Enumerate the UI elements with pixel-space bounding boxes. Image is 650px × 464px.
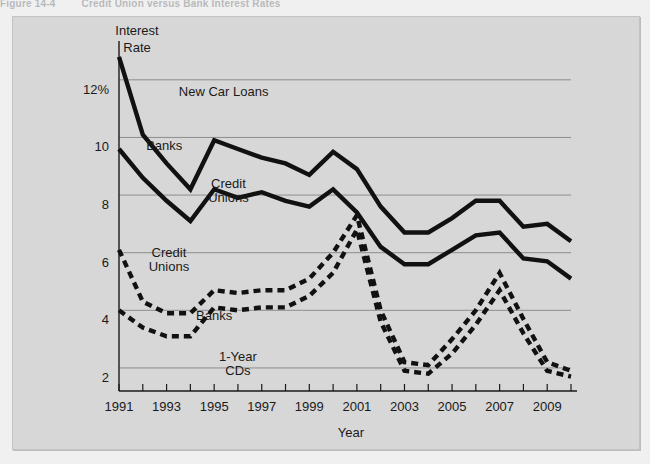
x-axis-tick-label: 2001 [342, 399, 371, 414]
x-axis-tick-marks [119, 384, 571, 391]
series-annotation: Banks [196, 308, 233, 323]
y-axis-title-line: Interest [115, 23, 159, 38]
y-axis-tick-label: 6 [102, 255, 109, 270]
series-annotation: 1-Year [219, 349, 257, 364]
y-axis-tick-labels: 12%108642 [83, 82, 109, 385]
x-axis-tick-label: 1993 [152, 399, 181, 414]
series-annotation: New Car Loans [179, 84, 269, 99]
x-axis-tick-label: 2007 [485, 399, 514, 414]
interest-rate-line-chart: 12%108642 199119931995199719992001200320… [13, 17, 639, 449]
y-axis-tick-label: 4 [102, 312, 109, 327]
x-axis-tick-label: 1995 [200, 399, 229, 414]
chart-panel: 12%108642 199119931995199719992001200320… [12, 16, 640, 450]
series-annotation: Credit [211, 176, 246, 191]
x-axis-tick-label: 2003 [390, 399, 419, 414]
x-axis-tick-label: 1991 [105, 399, 134, 414]
x-axis-title: Year [338, 425, 365, 440]
x-axis-title: Year [338, 425, 365, 440]
x-axis-tick-labels: 1991199319951997199920012003200520072009 [105, 399, 562, 414]
x-axis-tick-label: 1999 [295, 399, 324, 414]
x-axis-tick-label: 1997 [247, 399, 276, 414]
figure-title-text: Credit Union versus Bank Interest Rates [82, 0, 281, 9]
series-annotation: Credit [152, 245, 187, 260]
x-axis-tick-label: 2009 [533, 399, 562, 414]
figure-caption: Figure 14-4Credit Union versus Bank Inte… [0, 0, 650, 10]
figure-number: Figure 14-4 [0, 0, 56, 9]
y-axis-tick-label: 12% [83, 82, 109, 97]
series-annotation: Banks [146, 138, 183, 153]
y-axis-tick-label: 8 [102, 197, 109, 212]
series-line [119, 230, 571, 377]
data-series-group [119, 57, 571, 377]
y-axis-title: InterestRate [115, 23, 159, 55]
series-annotation: Unions [208, 190, 249, 205]
y-axis-tick-label: 10 [95, 139, 109, 154]
series-annotation: CDs [225, 363, 251, 378]
x-axis-tick-label: 2005 [438, 399, 467, 414]
series-annotation: Unions [149, 259, 190, 274]
y-axis-title-line: Rate [123, 40, 150, 55]
gridlines-group [119, 80, 571, 368]
y-axis-tick-label: 2 [102, 370, 109, 385]
